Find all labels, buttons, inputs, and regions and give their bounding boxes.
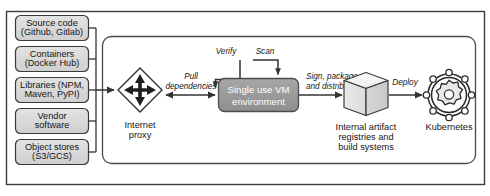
source-box-label-line1: Source code <box>26 18 78 28</box>
diagram-canvas: Source code (Github, Gitlab) Containers … <box>0 0 490 196</box>
node-kubernetes[interactable]: Kubernetes <box>423 69 474 132</box>
source-box-label-line1: Libraries (NPM, <box>20 80 84 90</box>
supply-chain-diagram: Source code (Github, Gitlab) Containers … <box>0 0 490 196</box>
node-label-line3: build systems <box>338 142 394 152</box>
node-label-line2: registries and <box>338 132 393 142</box>
source-box-object-stores[interactable]: Object stores (S3/GCS) <box>16 140 89 165</box>
node-label-line1: Internet <box>124 120 156 130</box>
source-box-label-line1: Object stores <box>25 142 80 152</box>
source-box-containers[interactable]: Containers (Docker Hub) <box>16 47 89 72</box>
source-box-source-code[interactable]: Source code (Github, Gitlab) <box>16 16 89 41</box>
source-box-label-line2: Maven, PyPI) <box>24 89 79 99</box>
node-label-line2: proxy <box>129 130 152 140</box>
source-box-label-line2: (S3/GCS) <box>32 151 72 161</box>
cube-icon <box>344 73 388 116</box>
kubernetes-helm-icon <box>423 69 474 120</box>
edge-label-pull-line1: Pull <box>184 72 198 81</box>
vm-label-line1: Single use VM <box>228 84 290 95</box>
source-box-label-line2: software <box>35 120 70 130</box>
node-label-line1: Internal artifact <box>336 122 397 132</box>
edge-label-verify: Verify <box>216 47 238 56</box>
node-label-kubernetes: Kubernetes <box>426 122 473 132</box>
source-box-label-line1: Vendor <box>37 111 66 121</box>
edge-label-deploy: Deploy <box>392 78 418 87</box>
source-box-label-line1: Containers <box>30 49 75 59</box>
vm-label-line2: environment <box>232 96 285 107</box>
source-box-libraries[interactable]: Libraries (NPM, Maven, PyPI) <box>16 78 89 103</box>
edge-label-scan: Scan <box>256 47 275 56</box>
node-single-use-vm[interactable]: Single use VM environment <box>219 79 299 112</box>
source-box-label-line2: (Docker Hub) <box>25 58 80 68</box>
source-box-vendor-software[interactable]: Vendor software <box>16 109 89 134</box>
source-box-label-line2: (Github, Gitlab) <box>21 27 83 37</box>
edge-label-pull-line2: dependencies <box>166 82 217 91</box>
